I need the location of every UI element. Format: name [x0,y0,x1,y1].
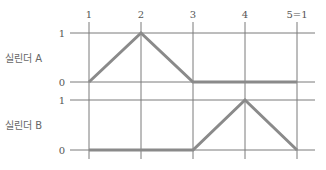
level-label: 0 [59,145,65,156]
step-label: 1 [86,9,92,20]
step-label: 5=1 [286,9,307,20]
level-label: 1 [59,95,65,106]
level-label: 0 [59,77,65,88]
level-label: 1 [59,28,65,39]
displacement-step-diagram: 12345=1 01실린더 A01실린더 B [0,0,326,170]
cylinder-label: 실린더 B [5,120,42,131]
step-label: 4 [242,9,248,20]
step-labels: 12345=1 [86,9,308,159]
cylinder-label: 실린더 A [5,53,42,64]
cylinder-row: 01실린더 A [5,28,315,88]
step-label: 3 [190,9,196,20]
cylinder-row: 01실린더 B [5,95,315,156]
step-label: 2 [138,9,144,20]
cylinder-rows: 01실린더 A01실린더 B [5,28,315,156]
